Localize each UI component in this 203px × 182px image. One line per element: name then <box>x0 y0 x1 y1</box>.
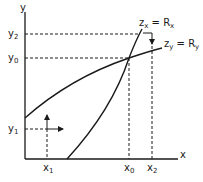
y2-label: y2 <box>8 28 18 41</box>
equilibrium-diagram: y x zx = Rx zy = Ry y2 y0 y1 x1 x0 x2 <box>0 0 203 182</box>
label-zy-ry: zy = Ry <box>164 38 199 51</box>
y1-label: y1 <box>8 123 18 136</box>
x-axis-label: x <box>180 149 186 160</box>
x0-label: x0 <box>124 162 134 175</box>
y-axis-label: y <box>20 2 26 13</box>
corner-arrow-icon <box>143 33 152 44</box>
curve-zx-rx <box>67 29 142 159</box>
y0-label: y0 <box>8 52 18 65</box>
label-zx-rx: zx = Rx <box>139 17 174 30</box>
x2-label: x2 <box>147 162 157 175</box>
x1-label: x1 <box>43 162 53 175</box>
